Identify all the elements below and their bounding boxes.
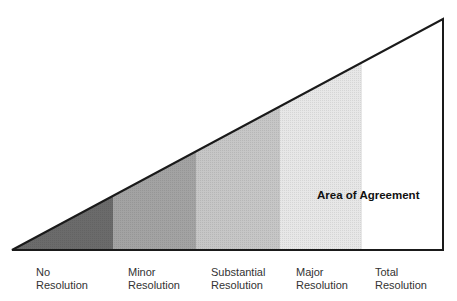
area-of-agreement-label: Area of Agreement — [317, 189, 419, 201]
label-no-resolution: No Resolution — [36, 266, 88, 292]
label-substantial-resolution: Substantial Resolution — [211, 266, 265, 292]
agreement-wedge-diagram — [0, 0, 457, 301]
label-major-resolution: Major Resolution — [296, 266, 348, 292]
label-total-resolution: Total Resolution — [375, 266, 427, 292]
label-minor-resolution: Minor Resolution — [128, 266, 180, 292]
band-total-resolution — [362, 0, 443, 250]
